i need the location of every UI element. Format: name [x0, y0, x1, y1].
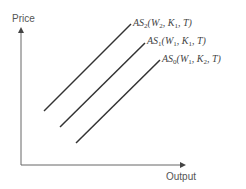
curve-as1: [60, 43, 145, 127]
x-axis-label: Output: [166, 171, 196, 182]
curve-label-as1: AS1(W1, K1, T): [146, 35, 207, 48]
y-axis-label: Price: [12, 13, 35, 24]
supply-diagram: Price Output AS2(W2, K1, T)AS1(W1, K1, T…: [0, 0, 246, 189]
curve-label-as0: AS0(W1, K2, T): [161, 53, 222, 66]
curve-as2: [44, 24, 131, 111]
curve-label-as2: AS2(W2, K1, T): [132, 17, 193, 30]
curve-as0: [76, 60, 160, 143]
